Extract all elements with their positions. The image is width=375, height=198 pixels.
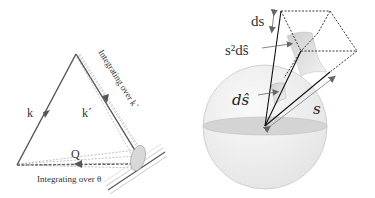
label-q: Q xyxy=(71,147,80,161)
outer-surface-patch xyxy=(287,32,327,76)
ds-arrow xyxy=(272,13,274,30)
k-prime-vector-line xyxy=(76,54,136,152)
caption-integrating-theta: Integrating over θ xyxy=(37,174,101,184)
caption-integrating-k-prime: Integrating over k´ xyxy=(96,48,140,111)
k-vector-line xyxy=(17,54,76,165)
label-s2-dshat: s²dŝ xyxy=(225,42,249,58)
label-k-prime: k´ xyxy=(82,106,92,120)
label-s: s xyxy=(313,100,321,118)
label-dshat: dŝ xyxy=(232,91,250,109)
scattering-triangle-diagram: k k´ Q Integrating over k´ Integrating o… xyxy=(17,48,167,194)
label-ds: ds xyxy=(251,13,265,29)
k-arrow-icon xyxy=(43,110,50,118)
diagram-canvas: k k´ Q Integrating over k´ Integrating o… xyxy=(0,0,375,198)
solid-angle-sphere-diagram: ds s²dŝ dŝ s xyxy=(203,11,357,189)
label-k: k xyxy=(27,106,33,120)
